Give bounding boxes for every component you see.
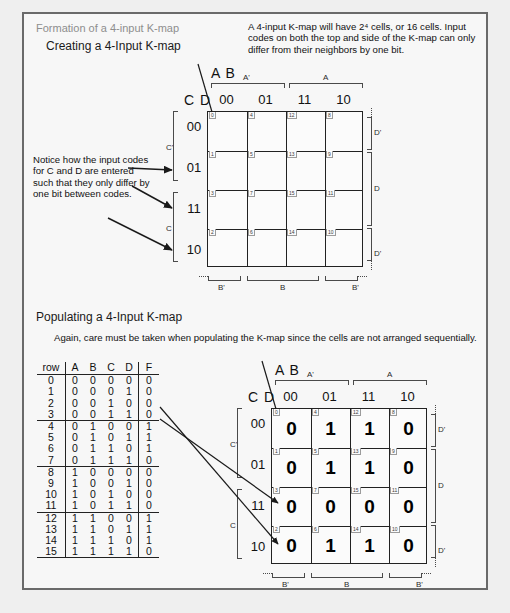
kmap-top-group-bracket-b-prime-right [325,276,358,281]
kmap-top-ab-label: A B [211,65,236,81]
kmap-bottom-row-header-1: 01 [245,457,271,472]
truth-table-row[interactable]: 701110 [37,455,159,467]
kmap-bottom-cell-index-11: 11 [390,487,399,494]
kmap-top-col-header-0: 00 [207,92,246,107]
kmap-bottom-cell-9[interactable]: 90 [389,448,428,487]
truth-table-row[interactable]: 100010 [37,386,159,397]
kmap-top-wrap-dots-left [199,276,208,277]
truth-table-cell-row-number: 7 [37,455,66,467]
kmap-top-cell-3[interactable]: 3 [208,190,247,229]
slide-title-gray: Formation of a 4-input K-map [36,22,179,34]
kmap-top-cell-2[interactable]: 2 [208,229,247,268]
kmap-bottom-cell-3[interactable]: 30 [272,487,311,526]
kmap-top-cell-4[interactable]: 4 [247,112,286,151]
truth-table-cell-bit: 1 [120,500,139,512]
truth-table-cell-bit: 0 [120,443,139,454]
kmap-bottom-cell-index-0: 0 [273,409,280,416]
kmap-bottom-ab-label: A B [275,362,300,378]
truth-table-col-b: B [84,362,102,375]
truth-table-cell-bit: 1 [102,500,120,512]
kmap-bottom-group-bracket-b [311,573,383,578]
kmap-top-wrap-dots-top [371,108,372,117]
kmap-bottom-cell-7[interactable]: 70 [311,487,350,526]
truth-table-cell-bit: 1 [84,443,102,454]
kmap-bottom-group-label-b-prime-left: B' [282,580,289,589]
kmap-bottom-cell-14[interactable]: 141 [350,526,389,565]
truth-table-row[interactable]: 401001 [37,421,159,433]
kmap-bottom-cell-13[interactable]: 131 [350,448,389,487]
truth-table-cell-bit: 1 [102,546,120,558]
kmap-top-group-bracket-d-prime-upper [367,117,372,150]
kmap-top-cell-0[interactable]: 0 [208,112,247,151]
kmap-top-cell-1[interactable]: 1 [208,151,247,190]
kmap-bottom-cell-value-11: 0 [389,496,428,518]
kmap-top-wrap-dots-bottom [371,261,372,270]
kmap-top-cell-index-0: 0 [209,112,216,119]
kmap-bottom-group-bracket-c [237,489,242,559]
truth-table-cell-bit: 1 [84,546,102,558]
kmap-bottom-cell-10[interactable]: 100 [389,526,428,565]
kmap-bottom-wrap-dots-top [435,405,436,414]
kmap-top-group-label-d-prime-upper: D' [374,128,381,137]
kmap-top-group-label-b-prime-left: B' [218,283,225,292]
kmap-bottom-cell-value-13: 1 [350,457,389,479]
kmap-bottom-cell-index-4: 4 [312,409,319,416]
truth-table-row[interactable]: 810000 [37,466,159,478]
kmap-bottom-cell-11[interactable]: 110 [389,487,428,526]
kmap-bottom-cell-5[interactable]: 51 [311,448,350,487]
kmap-bottom-group-label-d-prime-upper: D' [438,425,445,434]
kmap-top-cell-index-1: 1 [209,151,216,158]
truth-table-row[interactable]: 300110 [37,409,159,421]
kmap-top-group-bracket-c-prime [173,111,178,181]
kmap-bottom-group-bracket-b-prime-left [272,573,305,578]
kmap-top-group-label-d-prime-lower: D' [374,249,381,258]
kmap-bottom-group-label-a: A [387,370,392,379]
kmap-top-row-header-1: 01 [181,160,207,175]
truth-table-cell-row-number: 11 [37,500,66,512]
kmap-bottom-cell-8[interactable]: 80 [389,409,428,448]
kmap-top-cell-8[interactable]: 8 [325,112,364,151]
kmap-bottom-grid: 00411218010511319030701501102061141100 [271,408,427,564]
truth-table-row[interactable]: 1511110 [37,546,159,558]
truth-table-grid: row A B C D F 00000010001020010030011040… [37,362,159,558]
kmap-bottom-cell-12[interactable]: 121 [350,409,389,448]
kmap-top-cell-5[interactable]: 5 [247,151,286,190]
kmap-bottom-group-bracket-d-prime-lower [431,525,436,558]
kmap-top-cell-6[interactable]: 6 [247,229,286,268]
kmap-bottom-cell-4[interactable]: 41 [311,409,350,448]
kmap-bottom-cell-2[interactable]: 20 [272,526,311,565]
truth-table-cell-bit: 1 [120,409,139,421]
kmap-top-group-bracket-b [247,276,319,281]
kmap-top-cell-9[interactable]: 9 [325,151,364,190]
intro-paragraph: A 4-input K-map will have 2⁴ cells, or 1… [248,21,484,55]
kmap-bottom-group-bracket-c-prime [237,408,242,478]
kmap-top-cell-7[interactable]: 7 [247,190,286,229]
truth-table-col-c: C [102,362,120,375]
kmap-bottom-row-header-3: 10 [245,539,271,554]
truth-table-row[interactable]: 200100 [37,398,159,409]
truth-table-cell-bit: 0 [84,386,102,397]
kmap-top-group-bracket-d-prime-lower [367,228,372,261]
kmap-bottom-group-label-d: D [438,481,444,490]
truth-table-row[interactable]: 000000 [37,375,159,387]
kmap-top-group-bracket-a [289,83,363,88]
truth-table-row[interactable]: 601101 [37,443,159,454]
kmap-top-row-header-2: 11 [181,201,207,216]
kmap-top-cell-11[interactable]: 11 [325,190,364,229]
kmap-bottom-cell-15[interactable]: 150 [350,487,389,526]
kmap-bottom-cell-1[interactable]: 10 [272,448,311,487]
kmap-bottom-cell-index-12: 12 [351,409,361,416]
kmap-top-cell-15[interactable]: 15 [286,190,325,229]
kmap-top-cell-14[interactable]: 14 [286,229,325,268]
kmap-bottom-col-header-0: 00 [271,389,310,404]
kmap-bottom-cell-6[interactable]: 61 [311,526,350,565]
kmap-top-cell-12[interactable]: 12 [286,112,325,151]
truth-table-cell-bit: 0 [66,386,85,397]
kmap-top-cell-10[interactable]: 10 [325,229,364,268]
kmap-bottom-col-header-1: 01 [310,389,349,404]
kmap-bottom-cell-0[interactable]: 00 [272,409,311,448]
kmap-top-cell-13[interactable]: 13 [286,151,325,190]
truth-table-row[interactable]: 1110110 [37,500,159,512]
truth-table-row[interactable]: 501011 [37,432,159,443]
truth-table-cell-bit: 1 [102,409,120,421]
